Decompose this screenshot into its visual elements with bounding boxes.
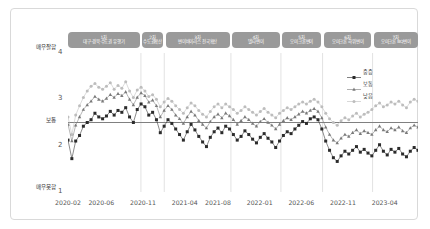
data-point [309,100,312,103]
x-axis-tick-0: 2020-02 [52,199,84,206]
data-point [228,105,231,108]
data-point [82,96,85,99]
data-point [174,127,177,130]
data-point [278,112,281,115]
data-point [220,106,223,109]
data-point [301,109,304,112]
data-point [136,89,139,92]
data-point [166,104,169,107]
y-axis-tick-4: 4 [58,48,62,56]
chart-card: 1차대구·경북·수도권 유행기2차수도권확산3차변이바이러스 전국확산4차델타변… [10,8,418,220]
data-point [178,133,181,136]
data-point [378,143,381,146]
data-point [167,118,170,121]
data-point [117,109,120,112]
x-axis-tick-6: 2022-06 [285,199,317,206]
data-point [405,155,408,158]
data-point [93,95,96,98]
data-point [340,154,343,157]
data-point [382,150,385,153]
data-point [128,115,131,118]
wave-name: 변이바이러스 전국확산 [178,40,217,44]
data-point [347,118,350,121]
data-point [68,115,70,118]
data-point [163,125,166,128]
data-point [220,131,223,134]
data-point [386,103,389,106]
data-point [155,118,158,121]
data-point [297,102,300,105]
data-point [101,117,104,120]
data-point [189,109,192,112]
y-axis-tick-1: 1 [58,187,62,195]
legend-label: 낮음 [363,92,373,99]
legend-label: 보통 [363,80,373,87]
data-point [351,115,354,118]
data-point [116,92,119,95]
data-point [320,127,323,130]
data-point [213,105,216,108]
data-point [332,156,335,159]
data-point [113,88,116,91]
data-point [101,88,104,91]
data-point [305,102,308,105]
data-point [197,135,200,138]
data-point [263,107,266,110]
data-point [290,132,293,135]
data-point [243,115,246,118]
data-point [232,133,235,136]
data-point [93,112,96,115]
legend-item-중증[interactable]: 중증 [347,67,403,76]
data-point [201,140,204,143]
wave-name: 대구·경북·수도권 유행기 [83,40,125,44]
data-point [224,125,227,128]
data-point [93,82,96,85]
data-point [78,115,81,118]
data-point [143,105,146,108]
legend-item-보통[interactable]: 보통 [347,79,403,88]
data-point [351,131,354,134]
data-point [343,116,346,119]
data-point [78,104,81,107]
data-point [416,125,418,128]
data-point [159,105,162,108]
data-point [212,115,215,118]
data-point [240,135,243,138]
wave-label-7: 7차오미크론 BQ변이 [374,32,418,48]
data-point [286,106,289,109]
x-axis-tick-8: 2023-04 [369,199,401,206]
data-point [297,124,300,127]
data-point [328,117,331,120]
data-point [370,154,373,157]
legend-marker-square-icon [347,67,361,76]
data-point [313,98,316,101]
data-point [355,112,358,115]
data-point [86,121,89,124]
data-point [363,148,366,151]
data-point [324,112,327,115]
data-point [228,127,231,130]
wave-label-3: 3차변이바이러스 전국확산 [166,32,230,48]
legend: 중증보통낮음 [347,67,403,103]
data-point [367,152,370,155]
data-point [274,116,277,119]
y-axis-top-label: 매우잘함 [16,43,56,51]
data-point [378,124,381,127]
data-point [309,117,312,120]
data-point [120,87,123,90]
data-point [209,110,212,113]
wave-name: 오미크론 하위변이 [332,40,364,44]
legend-item-낮음[interactable]: 낮음 [347,91,403,100]
data-point [182,139,185,142]
data-point [105,115,108,118]
data-point [409,126,412,129]
x-axis-tick-7: 2022-11 [327,199,359,206]
wave-name: 수도권확산 [143,40,162,44]
data-point [262,117,265,120]
data-point [293,127,296,130]
data-point [128,97,131,100]
data-point [132,96,135,99]
data-point [409,101,412,104]
data-point [328,133,331,136]
data-point [128,89,131,92]
